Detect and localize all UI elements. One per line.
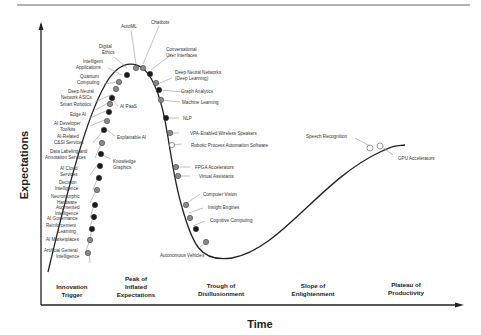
marker-nlp	[163, 115, 168, 120]
phase-innovation-2: Trigger	[62, 291, 84, 298]
label-intelligent-apps-1: Intelligent	[83, 59, 103, 64]
marker-insight-engines	[187, 215, 192, 220]
label-smart-robotics: Smart Robotics	[60, 102, 92, 107]
label-chatbots: Chatbots	[151, 20, 170, 25]
label-agi-1: Artificial General	[44, 248, 78, 253]
marker-dnn	[153, 80, 158, 85]
marker-autonomous	[203, 239, 208, 244]
label-data-labeling-1: Data Labeling and	[50, 149, 88, 154]
y-axis-arrow-icon	[39, 22, 44, 30]
marker-automl	[133, 65, 138, 70]
label-neuro-1: Neuromorphic	[51, 194, 81, 199]
label-ai-governance: AI Governance	[47, 216, 78, 221]
label-autonomous: Autonomous Vehicles	[160, 253, 205, 258]
label-intelligent-apps-2: Applications	[76, 65, 101, 70]
phase-plateau-1: Plateau of	[391, 281, 422, 288]
marker-computer-vision	[183, 202, 188, 207]
label-reinforcement-1: Reinforcement	[46, 223, 77, 228]
hype-cycle-chart: Expectations Time	[0, 0, 481, 335]
label-ai-cloud-1: AI Cloud	[60, 166, 78, 171]
label-explainable-ai: Explainable AI	[117, 135, 146, 140]
marker-ai-cloud	[97, 163, 102, 168]
phase-innovation-1: Innovation	[56, 283, 87, 290]
label-data-labeling-2: Annotation Services	[45, 155, 87, 160]
label-quantum-1: Quantum	[80, 74, 99, 79]
marker-smart-robotics	[106, 109, 111, 114]
marker-fpga	[173, 164, 178, 169]
label-conv-ui-1: Conversational	[166, 47, 197, 52]
phase-plateau-2: Productivity	[388, 289, 424, 296]
marker-virtual-assistants	[175, 173, 180, 178]
phase-peak-1: Peak of	[125, 275, 148, 282]
marker-data-labeling	[98, 151, 103, 156]
marker-speech	[367, 145, 373, 151]
label-machine-learning: Machine Learning	[182, 100, 219, 105]
label-ai-csi-2: C&SI Services	[54, 140, 84, 145]
marker-ai-dev	[101, 127, 106, 132]
label-dnn-asic-1: Deep Neural	[68, 89, 94, 94]
phase-labels: Innovation Trigger Peak of Inflated Expe…	[56, 275, 424, 298]
label-ai-cloud-2: Services	[60, 172, 78, 177]
label-insight-engines: Insight Engines	[208, 205, 240, 210]
marker-conv-ui	[147, 71, 152, 76]
label-virtual-assistants: Virtual Assistants	[199, 174, 235, 179]
marker-edge-ai	[104, 118, 109, 123]
x-axis-arrow-icon	[455, 303, 464, 308]
label-automl: AutoML	[121, 24, 137, 29]
label-dnn-2: (Deep Learning)	[175, 76, 209, 81]
label-gpu: GPU Accelerators	[398, 156, 435, 161]
marker-gpu	[377, 143, 383, 149]
marker-vpa	[167, 130, 172, 135]
technology-labels: AutoML Chatbots Digital Ethics Conversat…	[44, 20, 435, 259]
label-edge-ai: Edge AI	[70, 112, 86, 117]
marker-quantum	[113, 86, 118, 91]
label-computer-vision: Computer Vision	[203, 192, 237, 197]
marker-machine-learning	[158, 97, 163, 102]
label-reinforcement-2: Learning	[58, 229, 76, 234]
label-cognitive: Cognitive Computing	[210, 218, 253, 223]
label-fpga: FPGA Accelerators	[195, 165, 235, 170]
marker-neuromorphic	[94, 187, 99, 192]
phase-peak-3: Expectations	[117, 291, 156, 298]
label-quantum-2: Computing	[77, 80, 100, 85]
marker-intelligent-apps	[116, 79, 121, 84]
label-ai-csi-1: AI-Related	[57, 134, 79, 139]
label-agi-2: Intelligence	[56, 254, 80, 259]
label-dnn-1: Deep Neural Networks	[175, 70, 222, 75]
label-ai-dev-2: Toolkits	[60, 127, 76, 132]
phase-trough-1: Trough of	[207, 282, 236, 289]
y-axis-title: Expectations	[18, 131, 30, 199]
label-digital-ethics-2: Ethics	[102, 50, 115, 55]
label-dnn-asic-2: Network ASICs	[61, 95, 93, 100]
phase-slope-1: Slope of	[301, 282, 326, 289]
marker-ai-marketplaces	[87, 237, 92, 242]
phase-trough-2: Disillusionment	[198, 290, 244, 297]
phase-peak-2: Inflated	[125, 283, 147, 290]
marker-agi	[85, 250, 90, 255]
label-vpa: VPA-Enabled Wireless Speakers	[190, 131, 258, 136]
label-decision-2: Intelligence	[55, 186, 79, 191]
marker-digital-ethics	[124, 72, 129, 77]
marker-augmented-intelligence	[92, 202, 97, 207]
label-augmented-1: Augmented	[56, 205, 80, 210]
marker-ai-csi	[99, 140, 104, 145]
marker-reinforcement-learning	[89, 226, 94, 231]
label-ai-marketplaces: AI Marketplaces	[46, 237, 80, 242]
marker-cognitive	[193, 226, 198, 231]
label-digital-ethics-1: Digital	[99, 44, 112, 49]
label-knowledge-2: Graphics	[113, 165, 132, 170]
label-ai-paas: AI PaaS	[120, 104, 137, 109]
marker-rpa	[169, 142, 174, 147]
phase-slope-2: Enlightenment	[292, 290, 335, 297]
label-ai-dev-1: AI Developer	[54, 121, 81, 126]
marker-graph-analytics	[156, 87, 161, 92]
label-rpa: Robotic Process Automation Software	[191, 143, 269, 148]
marker-chatbots	[140, 65, 145, 70]
label-decision-1: Decision	[59, 180, 77, 185]
label-conv-ui-2: User Interfaces	[166, 53, 198, 58]
label-speech: Speech Recognition	[306, 134, 348, 139]
marker-ai-governance	[91, 214, 96, 219]
x-axis-title: Time	[247, 318, 272, 330]
label-nlp: NLP	[183, 116, 192, 121]
marker-ai-paas	[109, 95, 114, 100]
